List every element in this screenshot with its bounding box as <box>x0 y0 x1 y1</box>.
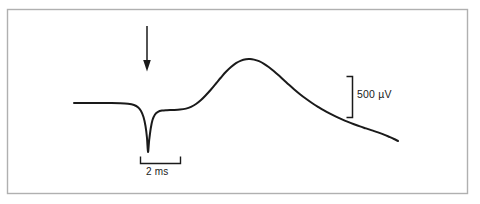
time-scale-bar <box>141 157 181 164</box>
trace-figure-svg <box>0 0 480 204</box>
arrow-head-icon <box>143 60 151 72</box>
figure-container: 500 µV 2 ms <box>0 0 480 204</box>
voltage-scale-label: 500 µV <box>357 88 392 100</box>
voltage-scale-bar <box>347 77 353 118</box>
signal-trace-line <box>74 59 398 152</box>
time-scale-label: 2 ms <box>146 166 168 177</box>
stimulus-marker-arrow <box>143 26 151 72</box>
time-scale-bracket <box>141 157 181 164</box>
voltage-scale-bracket <box>347 77 353 118</box>
figure-border-frame <box>8 10 468 194</box>
